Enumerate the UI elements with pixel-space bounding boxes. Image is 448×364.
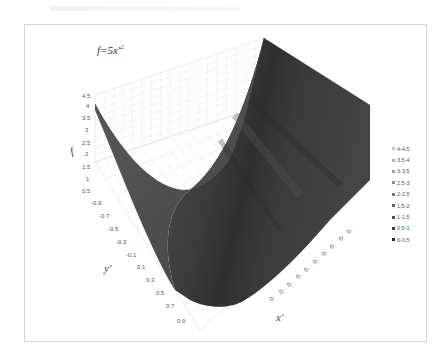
legend-swatch: [392, 147, 395, 150]
legend-swatch: [392, 216, 395, 219]
y-tick: -0.5: [108, 226, 118, 232]
legend-swatch: [392, 238, 395, 241]
z-tick: 2: [85, 151, 88, 157]
surface-plot: [0, 0, 448, 364]
legend-swatch: [392, 181, 395, 184]
z-tick: 4.5: [82, 93, 90, 99]
legend-item: 3.5-4: [392, 154, 410, 165]
y-tick: -0.9: [91, 200, 101, 206]
y-tick: 0.1: [137, 264, 145, 270]
y-tick: -0.3: [116, 239, 126, 245]
y-axis-label: y': [104, 262, 111, 274]
legend-label: 3-3.5: [397, 168, 410, 174]
legend-label: 0.5-1: [397, 225, 410, 231]
y-tick: 0.5: [156, 290, 164, 296]
legend: 4-4.53.5-43-3.52.5-32-2.51.5-21-1.50.5-1…: [392, 143, 410, 246]
legend-label: 2.5-3: [397, 180, 410, 186]
z-tick: 3: [85, 127, 88, 133]
legend-item: 4-4.5: [392, 143, 410, 154]
legend-item: 2.5-3: [392, 177, 410, 188]
y-tick: 0.7: [166, 303, 174, 309]
z-tick: 1: [86, 176, 89, 182]
z-tick: 0.5: [82, 188, 90, 194]
z-tick: 3.5: [82, 115, 90, 121]
legend-swatch: [392, 170, 395, 173]
z-tick: 2.5: [82, 140, 90, 146]
legend-label: 0-0.5: [397, 237, 410, 243]
z-tick: 4: [86, 103, 89, 109]
y-tick: -0.7: [99, 213, 109, 219]
legend-item: 0.5-1: [392, 223, 410, 234]
legend-item: 1.5-2: [392, 200, 410, 211]
x-axis-label: x': [276, 311, 283, 323]
legend-item: 2-2.5: [392, 189, 410, 200]
legend-swatch: [392, 204, 395, 207]
y-tick: 0.9: [177, 318, 185, 324]
legend-label: 4-4.5: [397, 146, 410, 152]
legend-label: 2-2.5: [397, 191, 410, 197]
legend-item: 0-0.5: [392, 234, 410, 245]
z-tick: 1.5: [82, 164, 90, 170]
y-tick: 0.3: [146, 277, 154, 283]
legend-item: 1-1.5: [392, 211, 410, 222]
legend-item: 3-3.5: [392, 166, 410, 177]
legend-label: 1.5-2: [397, 203, 410, 209]
legend-swatch: [392, 159, 395, 162]
legend-label: 1-1.5: [397, 214, 410, 220]
legend-label: 3.5-4: [397, 157, 410, 163]
legend-swatch: [392, 193, 395, 196]
legend-swatch: [392, 227, 395, 230]
y-tick: -0.1: [126, 252, 136, 258]
